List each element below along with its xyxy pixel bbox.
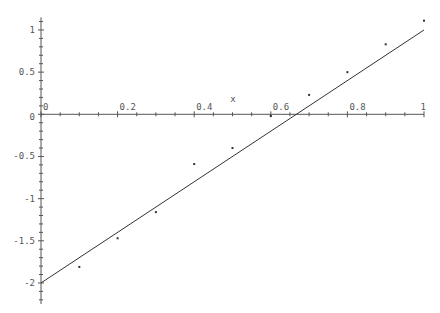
data-point xyxy=(385,43,387,45)
y-tick-label: 0.5 xyxy=(19,67,35,77)
data-point xyxy=(346,71,348,73)
data-point xyxy=(423,20,425,22)
y-tick-label: -1 xyxy=(24,194,35,204)
data-point xyxy=(193,163,195,165)
x-axis-label: x xyxy=(230,94,236,104)
data-point xyxy=(270,115,272,117)
axes: 00.20.40.60.8110.50-0.5-1-1.5-2 xyxy=(13,17,426,304)
y-tick-label: 0 xyxy=(30,112,35,122)
x-tick-label: 0.6 xyxy=(273,102,289,112)
x-tick-label: 0.2 xyxy=(120,102,136,112)
chart-canvas: 00.20.40.60.8110.50-0.5-1-1.5-2 x xyxy=(0,0,440,313)
x-tick-label: 0 xyxy=(43,102,48,112)
y-tick-label: -2 xyxy=(24,278,35,288)
x-tick-label: 1 xyxy=(421,102,426,112)
data-point xyxy=(78,266,80,268)
y-tick-label: -0.5 xyxy=(13,151,35,161)
y-tick-label: 1 xyxy=(30,25,35,35)
data-point xyxy=(308,94,310,96)
data-point xyxy=(117,237,119,239)
data-point xyxy=(155,211,157,213)
x-tick-label: 0.8 xyxy=(349,102,365,112)
y-tick-label: -1.5 xyxy=(13,236,35,246)
x-tick-label: 0.4 xyxy=(196,102,212,112)
data-point xyxy=(232,147,234,149)
fit-line xyxy=(41,30,424,283)
